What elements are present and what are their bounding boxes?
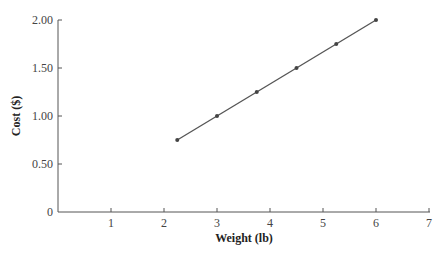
x-tick-label: 7 — [426, 216, 432, 230]
data-point — [334, 42, 338, 46]
y-axis-label: Cost ($) — [9, 96, 23, 136]
axes — [58, 20, 430, 212]
y-tick-label: 0.50 — [32, 157, 53, 171]
series — [175, 18, 378, 142]
data-point — [215, 114, 219, 118]
x-ticks: 1234567 — [108, 208, 432, 230]
data-line — [177, 20, 376, 140]
x-tick-label: 1 — [108, 216, 114, 230]
x-axis-label: Weight (lb) — [215, 231, 273, 245]
x-tick-label: 3 — [214, 216, 220, 230]
x-tick-label: 2 — [161, 216, 167, 230]
x-tick-label: 6 — [373, 216, 379, 230]
x-tick-label: 5 — [320, 216, 326, 230]
data-point — [295, 66, 299, 70]
y-tick-label: 2.00 — [32, 13, 53, 27]
y-tick-label: 1.00 — [32, 109, 53, 123]
y-tick-label: 1.50 — [32, 61, 53, 75]
data-point — [175, 138, 179, 142]
chart: 1234567 00.501.001.502.00 Weight (lb) Co… — [0, 0, 446, 256]
data-point — [374, 18, 378, 22]
y-tick-label: 0 — [47, 205, 53, 219]
data-point — [255, 90, 259, 94]
x-tick-label: 4 — [267, 216, 273, 230]
